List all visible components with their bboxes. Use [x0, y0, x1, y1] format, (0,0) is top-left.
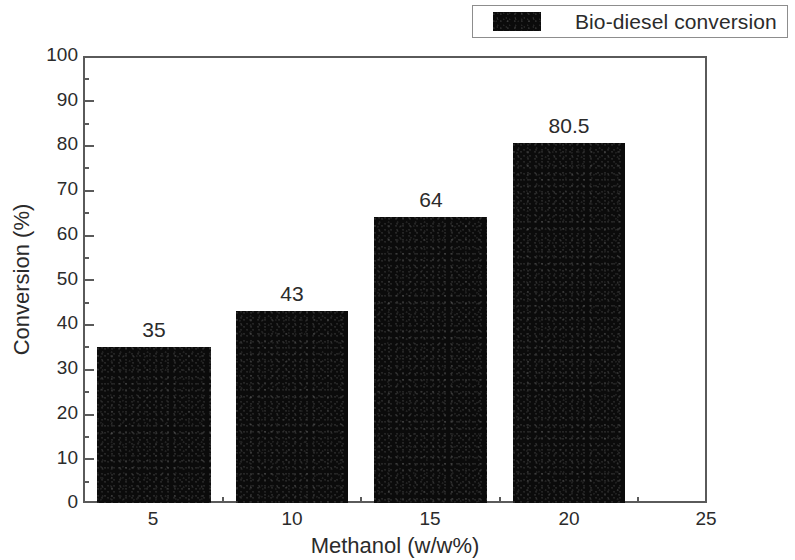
bar-value-label-methanol-5: 35 — [142, 318, 165, 342]
y-tick-label-70: 70 — [57, 178, 78, 200]
y-tick-label-60: 60 — [57, 223, 78, 245]
y-tick-label-100: 100 — [46, 44, 78, 66]
y-tick-label-20: 20 — [57, 402, 78, 424]
y-tick-label-0: 0 — [67, 491, 78, 513]
legend-label-bio-diesel-conversion: Bio-diesel conversion — [575, 10, 777, 34]
x-tick-label-15: 15 — [419, 508, 440, 530]
y-tick-label-40: 40 — [57, 312, 78, 334]
bar-methanol-5 — [97, 347, 211, 503]
x-tick-label-10: 10 — [281, 508, 302, 530]
x-tick-label-25: 25 — [695, 508, 716, 530]
bar-methanol-15 — [374, 217, 487, 503]
bar-value-label-methanol-20: 80.5 — [549, 114, 590, 138]
y-axis-title: Conversion (%) — [9, 56, 35, 503]
y-tick-label-50: 50 — [57, 268, 78, 290]
bar-chart-figure: Bio-diesel conversion 100 90 80 70 60 50… — [0, 0, 795, 560]
plot-area — [83, 56, 707, 503]
x-axis-title: Methanol (w/w%) — [83, 533, 707, 559]
x-tick-label-20: 20 — [558, 508, 579, 530]
bar-methanol-10 — [236, 311, 348, 503]
y-tick-label-10: 10 — [57, 447, 78, 469]
chart-legend: Bio-diesel conversion — [472, 5, 788, 38]
x-tick-label-5: 5 — [148, 508, 159, 530]
y-tick-label-80: 80 — [57, 133, 78, 155]
legend-swatch-bio-diesel-conversion — [493, 12, 541, 31]
bar-value-label-methanol-10: 43 — [280, 282, 303, 306]
y-tick-label-90: 90 — [57, 89, 78, 111]
bar-value-label-methanol-15: 64 — [419, 188, 442, 212]
bar-methanol-20 — [513, 143, 625, 503]
y-tick-label-30: 30 — [57, 357, 78, 379]
